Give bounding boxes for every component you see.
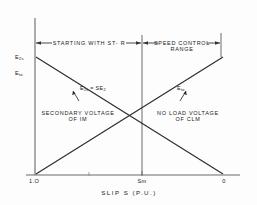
x-tick-label-one-point-zero: 1.O [29,178,39,184]
band-left-arrowhead-start [36,41,41,44]
note-secondary-voltage-im-line2: OF IM [41,116,114,122]
diagram-canvas [0,0,257,205]
band-right-arrowhead-start [143,41,148,44]
curve-callout-eto-sub: to [181,87,184,92]
band-right-arrowhead-end [215,41,220,44]
x-axis-title: SLIP S (P.U.) [101,190,157,197]
curve-callout-e2s-equals-se2: E2s = SE2 [80,85,106,92]
band-label-speed-control-range: SPEED CONTROL RANGE [154,40,210,52]
band-label-starting-with-st-r: STARTING WITH ST- R [53,40,126,46]
note-secondary-voltage-im: SECONDARY VOLTAGE OF IM [41,110,114,122]
slip-voltage-diagram: STARTING WITH ST- R SPEED CONTROL RANGE … [0,0,257,205]
y-axis-label-eto: Eto [15,70,23,77]
curve-callout-sub-2: 2 [103,87,105,92]
band-left-arrowhead-end [136,41,141,44]
x-tick-label-sm: Sm [137,178,146,184]
x-tick-label-zero: 0 [222,178,226,184]
curve-callout-eto: Eto [177,85,184,92]
note-no-load-voltage-clm: NO LOAD VOLTAGE OF CLM [157,110,219,122]
note-no-load-voltage-clm-line2: OF CLM [157,116,219,122]
band-label-speed-control-range-line2: RANGE [154,46,210,52]
y-axis-label-eto-subscript: to [19,72,23,77]
curve-callout-operator: = SE [88,85,103,91]
y-axis-label-e2s: E2s [15,54,24,61]
y-axis-label-e2s-subscript: 2s [19,56,24,61]
